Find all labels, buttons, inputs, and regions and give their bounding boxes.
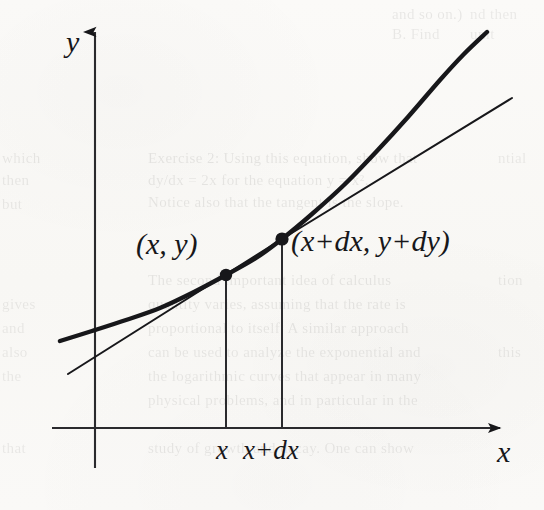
x-plus-dx-tick-label: x+dx	[243, 437, 299, 464]
x-tick-label: x	[216, 437, 228, 464]
first-point-label: (x, y)	[136, 229, 198, 259]
second-point-marker	[275, 232, 288, 245]
second-point-label: (x+dx, y+dy)	[291, 226, 450, 256]
calculus-tangent-figure: and so on.)B. Findnd thenunitwhichExerci…	[0, 0, 544, 510]
x-axis-label: x	[497, 437, 510, 467]
y-axis-label: y	[66, 27, 79, 57]
first-point-marker	[220, 269, 232, 281]
diagram-canvas	[0, 0, 544, 510]
function-curve	[60, 32, 487, 341]
